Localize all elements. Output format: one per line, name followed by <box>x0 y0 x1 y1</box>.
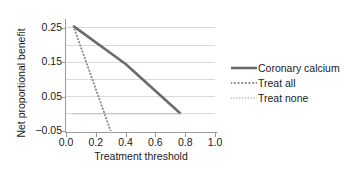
series-line-treat-all <box>73 26 110 131</box>
legend-item[interactable]: Treat all <box>231 75 349 90</box>
y-tick-mark <box>62 62 66 63</box>
y-tick-label: −0.05 <box>28 124 62 136</box>
decision-curve-figure: Net proportional benefit 0.250.150.05−0.… <box>0 0 349 177</box>
legend: Coronary calciumTreat allTreat none <box>231 60 349 105</box>
y-tick-mark <box>62 97 66 98</box>
plot-area <box>66 21 215 131</box>
legend-label: Treat all <box>258 77 296 89</box>
y-tick-label: 0.05 <box>28 90 62 102</box>
x-tick-label: 0.2 <box>81 136 111 148</box>
x-tick-label: 0.6 <box>140 136 170 148</box>
legend-item[interactable]: Treat none <box>231 90 349 105</box>
legend-line-swatch-icon <box>231 63 257 73</box>
legend-line-swatch-icon <box>231 93 257 103</box>
y-axis-tick-labels: 0.250.150.05−0.05 <box>26 0 62 177</box>
y-tick-mark <box>62 28 66 29</box>
y-tick-label: 0.25 <box>28 21 62 33</box>
x-tick-label: 1.0 <box>200 136 230 148</box>
x-axis-title: Treatment threshold <box>66 150 216 162</box>
x-tick-mark <box>185 133 186 137</box>
x-tick-label: 0.4 <box>111 136 141 148</box>
x-tick-mark <box>215 133 216 137</box>
legend-item[interactable]: Coronary calcium <box>231 60 349 75</box>
x-tick-mark <box>126 133 127 137</box>
x-tick-label: 0.0 <box>51 136 81 148</box>
x-tick-mark <box>66 133 67 137</box>
x-tick-mark <box>96 133 97 137</box>
x-tick-label: 0.8 <box>170 136 200 148</box>
legend-label: Treat none <box>258 92 308 104</box>
x-axis-line <box>65 132 217 133</box>
legend-line-swatch-icon <box>231 78 257 88</box>
y-tick-mark <box>62 131 66 132</box>
legend-label: Coronary calcium <box>258 62 340 74</box>
x-tick-mark <box>155 133 156 137</box>
plot-svg <box>66 21 215 131</box>
y-tick-label: 0.15 <box>28 55 62 67</box>
